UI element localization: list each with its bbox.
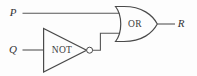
logic-circuit-diagram: NOT OR P Q R (0, 0, 197, 76)
input-label-p: P (9, 6, 17, 18)
or-gate-label: OR (128, 19, 142, 29)
not-gate-label: NOT (52, 45, 72, 55)
output-label-r: R (177, 17, 185, 29)
circuit-canvas: NOT OR P Q R (0, 0, 197, 76)
not-gate-bubble-icon (87, 47, 93, 53)
input-label-q: Q (9, 43, 17, 55)
